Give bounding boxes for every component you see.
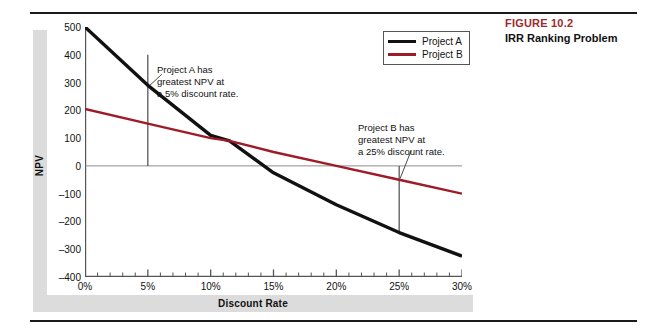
legend-swatch-a <box>388 40 416 43</box>
legend-label: Project A <box>422 36 462 47</box>
figure-title: IRR Ranking Problem <box>505 31 645 45</box>
legend-swatch-b <box>388 53 416 56</box>
x-tick-label: 30% <box>452 281 472 292</box>
legend-item: Project B <box>388 48 463 61</box>
legend: Project AProject B <box>383 31 470 65</box>
figure-caption: FIGURE 10.2 IRR Ranking Problem <box>505 17 645 45</box>
x-axis-tick-labels: 0%5%10%15%20%25%30% <box>85 281 462 295</box>
y-axis-title-text: NPV <box>35 154 46 175</box>
x-tick-label: 5% <box>141 281 155 292</box>
y-tick-label: 100 <box>47 133 81 144</box>
y-tick-label: –300 <box>47 244 81 255</box>
x-tick-label: 0% <box>78 281 92 292</box>
annotation-line: Project B has <box>358 122 445 134</box>
annotation-line: a 5% discount rate. <box>157 88 238 100</box>
y-tick-label: 400 <box>47 49 81 60</box>
legend-label: Project B <box>422 49 463 60</box>
y-tick-label: –100 <box>47 188 81 199</box>
annotation-line: greatest NPV at <box>358 134 445 146</box>
bottom-divider-rule <box>30 320 637 322</box>
top-divider-rule <box>30 12 637 14</box>
annotation-project-a: Project A hasgreatest NPV ata 5% discoun… <box>157 64 238 100</box>
annotation-line: a 25% discount rate. <box>358 146 445 158</box>
x-axis-title: Discount Rate <box>33 295 473 312</box>
x-tick-label: 10% <box>201 281 221 292</box>
annotation-project-b: Project B hasgreatest NPV ata 25% discou… <box>358 122 445 158</box>
annotation-line: Project A has <box>157 64 238 76</box>
annotation-line: greatest NPV at <box>157 76 238 88</box>
y-tick-label: –200 <box>47 216 81 227</box>
y-tick-label: –400 <box>47 272 81 283</box>
x-axis-title-text: Discount Rate <box>218 298 288 309</box>
legend-item: Project A <box>388 35 463 48</box>
y-tick-label: 0 <box>47 160 81 171</box>
figure-page: FIGURE 10.2 IRR Ranking Problem NPV Disc… <box>0 0 649 336</box>
y-axis-tick-labels: 5004003002001000–100–200–300–400 <box>45 27 81 277</box>
x-tick-label: 20% <box>326 281 346 292</box>
y-tick-label: 500 <box>47 22 81 33</box>
y-tick-label: 200 <box>47 105 81 116</box>
x-tick-label: 25% <box>389 281 409 292</box>
figure-number: FIGURE 10.2 <box>505 17 645 30</box>
x-tick-label: 15% <box>263 281 283 292</box>
y-tick-label: 300 <box>47 77 81 88</box>
